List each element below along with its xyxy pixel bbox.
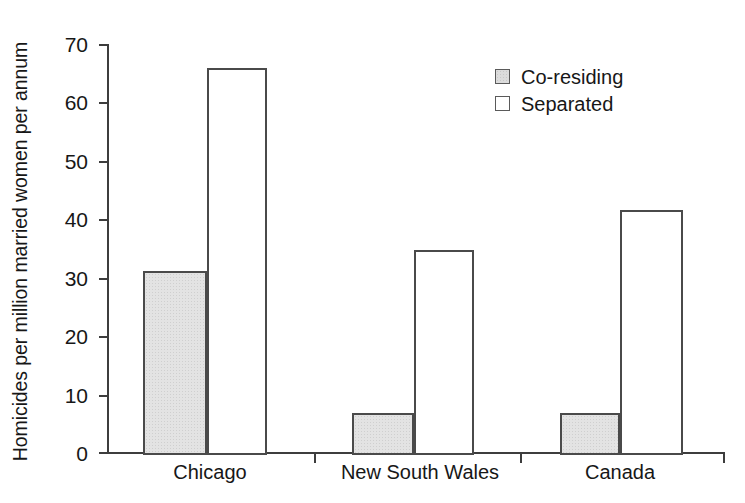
- bar-chicago-separated: [207, 68, 267, 455]
- y-tick-20: [99, 336, 108, 338]
- y-tick-label-30: 30: [28, 268, 88, 289]
- y-tick-40: [99, 219, 108, 221]
- x-tick-end: [723, 453, 725, 463]
- y-tick-label-50: 50: [28, 151, 88, 172]
- x-tick-separator-2: [520, 453, 522, 463]
- bar-canada-co-residing: [560, 413, 620, 455]
- y-tick-label-70: 70: [28, 34, 88, 55]
- legend-swatch-co-residing: [495, 69, 510, 84]
- y-axis-line: [107, 44, 109, 454]
- legend-label-co-residing: Co-residing: [521, 67, 623, 87]
- bar-new-south-wales-co-residing: [352, 413, 414, 455]
- bar-canada-separated: [620, 210, 683, 455]
- y-tick-60: [99, 102, 108, 104]
- legend-item-co-residing: Co-residing: [495, 63, 623, 90]
- y-axis-title: Homicides per million married women per …: [0, 0, 40, 503]
- x-tick-separator-1: [314, 453, 316, 463]
- legend-item-separated: Separated: [495, 90, 623, 117]
- x-category-label-chicago: Chicago: [145, 462, 275, 482]
- y-tick-0: [99, 452, 108, 454]
- bar-chart: Homicides per million married women per …: [0, 0, 745, 503]
- bar-new-south-wales-separated: [414, 250, 474, 455]
- y-tick-70: [99, 44, 108, 46]
- y-tick-label-40: 40: [28, 209, 88, 230]
- y-tick-label-60: 60: [28, 92, 88, 113]
- y-tick-50: [99, 161, 108, 163]
- y-tick-10: [99, 395, 108, 397]
- legend-swatch-separated: [495, 96, 510, 111]
- chart-legend: Co-residing Separated: [495, 63, 623, 117]
- y-tick-30: [99, 278, 108, 280]
- x-category-label-canada: Canada: [545, 462, 695, 482]
- bar-chicago-co-residing: [143, 271, 207, 455]
- y-tick-label-20: 20: [28, 326, 88, 347]
- x-category-label-new-south-wales: New South Wales: [325, 462, 515, 482]
- legend-label-separated: Separated: [521, 94, 613, 114]
- y-tick-label-10: 10: [28, 385, 88, 406]
- y-tick-label-0: 0: [28, 443, 88, 464]
